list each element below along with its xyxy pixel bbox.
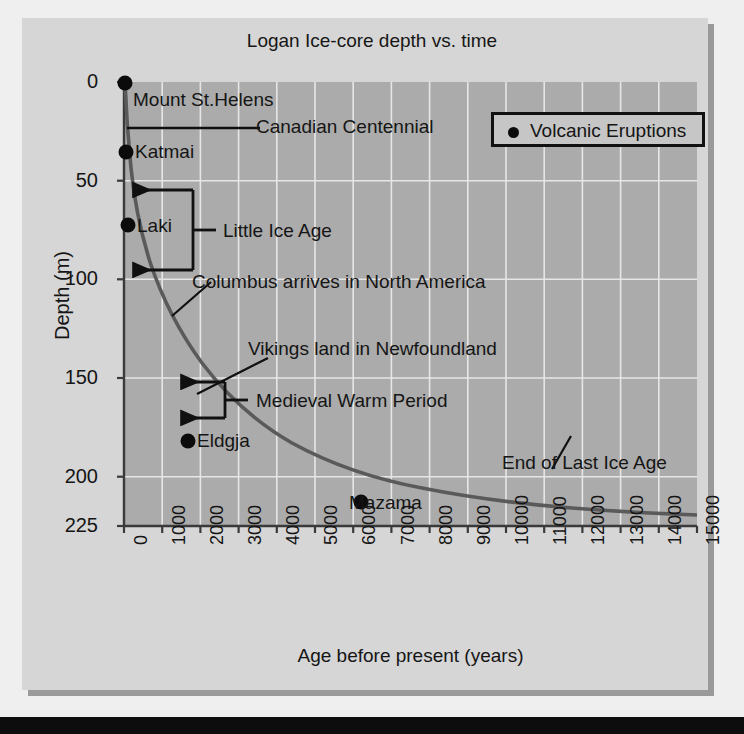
- figure-root: Volcanic Eruptions Logan Ice-core depth …: [0, 0, 744, 734]
- annotation-katmai: Katmai: [135, 141, 194, 163]
- x-tick-label-5000: 5000: [321, 505, 342, 545]
- annotation-columbus: Columbus arrives in North America: [192, 271, 486, 293]
- x-tick-label-14000: 14000: [665, 495, 686, 545]
- marker-laki: [121, 218, 136, 233]
- legend-label-volcanic-eruptions: Volcanic Eruptions: [530, 120, 686, 142]
- x-tick-label-3000: 3000: [245, 505, 266, 545]
- marker-eldgja: [181, 434, 196, 449]
- x-tick-label-9000: 9000: [474, 505, 495, 545]
- annotation-mazama: Mazama: [349, 492, 422, 514]
- annotation-canadian-centennial: Canadian Centennial: [256, 116, 433, 138]
- annotation-medieval-warm-period: Medieval Warm Period: [256, 390, 447, 412]
- annotation-little-ice-age: Little Ice Age: [223, 220, 332, 242]
- annotation-vikings: Vikings land in Newfoundland: [248, 338, 497, 360]
- page-bottom-strip: [0, 717, 744, 734]
- marker-mount-st-helens: [118, 76, 133, 91]
- x-tick-label-1000: 1000: [169, 505, 190, 545]
- x-tick-label-12000: 12000: [588, 495, 609, 545]
- y-tick-label-150: 150: [38, 366, 98, 389]
- marker-katmai: [119, 145, 134, 160]
- y-tick-label-100: 100: [38, 267, 98, 290]
- annotation-end-of-last-ice-age: End of Last Ice Age: [502, 452, 667, 474]
- annotation-mount-st-helens: Mount St.Helens: [133, 89, 273, 111]
- annotation-eldgja: Eldgja: [197, 430, 250, 452]
- x-tick-label-11000: 11000: [550, 496, 571, 545]
- x-axis-title: Age before present (years): [124, 645, 697, 667]
- annotation-laki: Laki: [137, 215, 172, 237]
- legend: Volcanic Eruptions: [491, 112, 705, 147]
- y-tick-label-200: 200: [38, 465, 98, 488]
- y-axis-title: Depth (m): [51, 226, 74, 366]
- y-tick-label-0: 0: [38, 70, 98, 93]
- x-tick-label-0: 0: [131, 535, 152, 545]
- x-tick-label-13000: 13000: [627, 495, 648, 545]
- x-tick-label-2000: 2000: [207, 505, 228, 545]
- x-tick-label-10000: 10000: [512, 495, 533, 545]
- x-tick-label-15000: 15000: [703, 495, 724, 545]
- y-tick-label-225: 225: [38, 514, 98, 537]
- chart-title: Logan Ice-core depth vs. time: [0, 30, 744, 52]
- x-tick-label-8000: 8000: [436, 505, 457, 545]
- volcanic-eruption-icon: [508, 127, 519, 138]
- y-tick-label-50: 50: [38, 169, 98, 192]
- x-tick-label-4000: 4000: [283, 505, 304, 545]
